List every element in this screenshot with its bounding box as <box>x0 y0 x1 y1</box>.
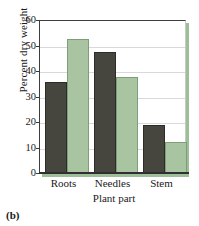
bar <box>165 142 187 173</box>
bar-group <box>94 21 138 173</box>
y-axis-tick-label: 0 <box>16 168 36 178</box>
bar <box>45 82 67 173</box>
figure-caption: (b) <box>6 209 19 221</box>
y-axis-tick-label: 40 <box>16 66 36 76</box>
x-axis-category-label: Needles <box>88 177 137 189</box>
y-axis-tick-label: 20 <box>16 117 36 127</box>
figure-b: Percent dry weight 0102030405060 RootsNe… <box>0 0 199 226</box>
x-axis-category-label: Roots <box>39 177 88 189</box>
x-axis-category-label: Stem <box>137 177 186 189</box>
bar <box>116 77 138 173</box>
bar-group <box>45 21 89 173</box>
bar <box>67 39 89 173</box>
x-axis-line <box>39 172 189 174</box>
bar-group <box>143 21 187 173</box>
x-axis-title: Plant part <box>39 192 189 204</box>
plot-inner <box>40 21 185 173</box>
plot-area <box>39 20 186 173</box>
y-axis-tick-label: 30 <box>16 92 36 102</box>
bar <box>143 125 165 173</box>
y-axis-tick-label: 10 <box>16 143 36 153</box>
y-axis-tick-label: 60 <box>16 15 36 25</box>
x-axis-category-labels: RootsNeedlesStem <box>39 177 189 193</box>
y-axis-tick-label: 50 <box>16 41 36 51</box>
bar <box>94 52 116 173</box>
y-axis-tick-labels: 0102030405060 <box>16 14 36 178</box>
